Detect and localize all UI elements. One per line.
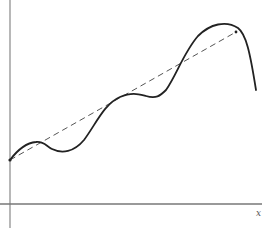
end-point xyxy=(235,31,238,34)
diagram-canvas: x xyxy=(0,0,269,228)
start-point xyxy=(8,158,11,161)
curve-secant-diagram: x xyxy=(0,0,269,228)
x-axis-label: x xyxy=(256,208,261,218)
